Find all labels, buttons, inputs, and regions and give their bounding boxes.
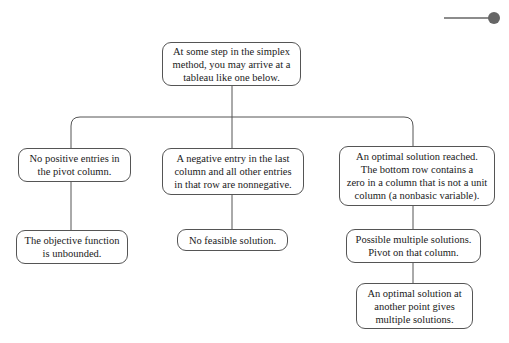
- node-multiple-solutions: An optimal solution at another point giv…: [356, 283, 473, 329]
- node-no-feasible-solution: No feasible solution.: [177, 229, 288, 251]
- node-no-positive-entries: No positive entries in the pivot column.: [18, 148, 131, 182]
- marker-dot-icon: [488, 12, 500, 24]
- node-text: An optimal solution at another point giv…: [367, 287, 461, 326]
- node-text: No feasible solution.: [189, 234, 276, 247]
- node-unbounded: The objective function is unbounded.: [16, 230, 128, 264]
- node-text: The objective function is unbounded.: [24, 234, 119, 260]
- node-possible-multiple: Possible multiple solutions. Pivot on th…: [346, 229, 481, 263]
- node-text: Possible multiple solutions. Pivot on th…: [356, 233, 472, 259]
- node-text: An optimal solution reached. The bottom …: [347, 150, 488, 202]
- node-negative-entry: A negative entry in the last column and …: [162, 148, 304, 195]
- node-text: No positive entries in the pivot column.: [29, 152, 119, 178]
- root-node: At some step in the simplex method, you …: [162, 42, 301, 86]
- node-text: A negative entry in the last column and …: [174, 152, 292, 191]
- node-optimal-reached: An optimal solution reached. The bottom …: [339, 146, 495, 206]
- root-node-text: At some step in the simplex method, you …: [173, 45, 291, 84]
